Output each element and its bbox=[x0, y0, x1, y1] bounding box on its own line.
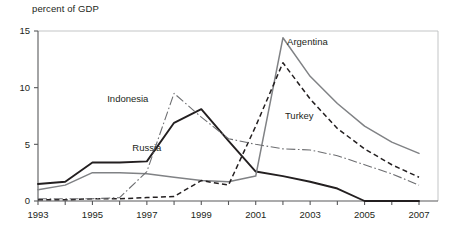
series-label-russia: Russia bbox=[132, 142, 162, 153]
series-label-argentina: Argentina bbox=[287, 36, 328, 47]
plot-border bbox=[38, 31, 438, 201]
y-tick-label: 0 bbox=[25, 195, 30, 206]
x-tick-label: 2005 bbox=[354, 209, 375, 220]
plot-frame bbox=[38, 31, 438, 201]
x-tick-label: 2007 bbox=[408, 209, 429, 220]
x-tick-label: 2003 bbox=[300, 209, 321, 220]
series-line-turkey bbox=[38, 63, 419, 200]
series-label-indonesia: Indonesia bbox=[107, 93, 149, 104]
y-tick-label: 10 bbox=[19, 82, 30, 93]
y-tick-labels: 051015 bbox=[19, 25, 30, 206]
y-tick-label: 15 bbox=[19, 25, 30, 36]
y-tick-label: 5 bbox=[25, 139, 30, 150]
series-annotations: RussiaArgentinaTurkeyIndonesia bbox=[107, 36, 328, 154]
chart-container: percent of GDP 051015 199319951997199920… bbox=[0, 0, 458, 241]
x-tick-label: 1997 bbox=[136, 209, 157, 220]
x-tick-label: 1999 bbox=[191, 209, 212, 220]
series-line-argentina bbox=[38, 38, 419, 190]
x-tick-label: 1995 bbox=[82, 209, 103, 220]
axis-ticks bbox=[34, 31, 419, 205]
x-tick-labels: 19931995199719992001200320052007 bbox=[27, 209, 429, 220]
line-chart-plot: 051015 19931995199719992001200320052007 … bbox=[0, 0, 458, 241]
x-tick-label: 1993 bbox=[27, 209, 48, 220]
series-label-turkey: Turkey bbox=[285, 110, 314, 121]
series-lines bbox=[38, 38, 419, 201]
x-tick-label: 2001 bbox=[245, 209, 266, 220]
